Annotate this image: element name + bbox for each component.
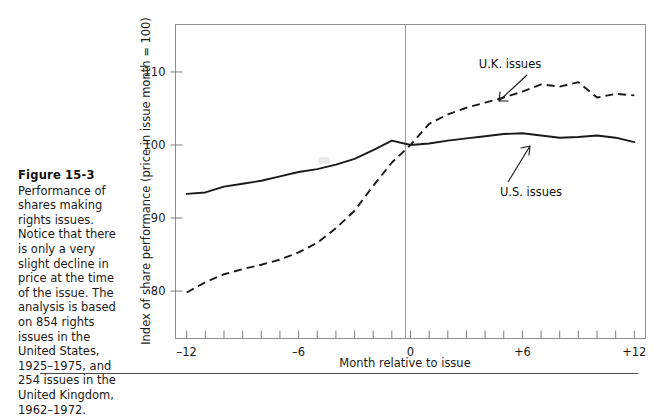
y-axis-ticks	[171, 72, 183, 291]
annotation-uk-issues: U.K. issues	[479, 57, 541, 71]
x-tick-label: +6	[514, 345, 531, 359]
series-line-us-issues	[187, 133, 635, 194]
uk-annotation-leader-line	[499, 75, 527, 101]
y-axis-title: Index of share performance (price in iss…	[139, 17, 153, 345]
us-annotation-leader-line	[508, 146, 530, 182]
y-tick-label: 90	[151, 211, 166, 225]
series-line-uk-issues	[187, 82, 635, 292]
x-tick-label: –6	[292, 345, 305, 359]
annotation-us-issues: U.S. issues	[500, 185, 562, 199]
x-axis-ticks	[187, 331, 635, 339]
x-axis-title: Month relative to issue	[339, 356, 470, 370]
x-tick-label: +12	[622, 345, 646, 359]
plot-frame	[176, 25, 646, 339]
x-tick-label: –12	[176, 345, 196, 359]
y-tick-label: 80	[151, 284, 166, 298]
